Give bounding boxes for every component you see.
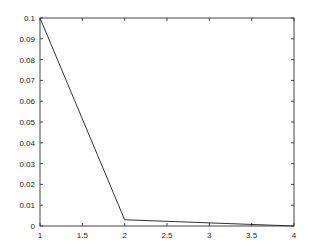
y-tick-label: 0.01: [19, 201, 35, 210]
y-tick-label: 0.03: [19, 160, 35, 169]
y-tick-label: 0: [31, 222, 36, 231]
y-axis-ticks: 00.010.020.030.040.050.060.070.080.090.1: [19, 14, 294, 231]
y-tick-label: 0.1: [24, 14, 36, 23]
x-tick-label: 4: [292, 231, 297, 240]
line-chart: 00.010.020.030.040.050.060.070.080.090.1…: [0, 0, 309, 250]
plot-area-frame: [40, 18, 294, 226]
data-line: [40, 18, 294, 226]
x-tick-label: 3.5: [246, 231, 258, 240]
x-tick-label: 2.5: [161, 231, 173, 240]
y-tick-label: 0.05: [19, 118, 35, 127]
y-tick-label: 0.08: [19, 56, 35, 65]
y-tick-label: 0.02: [19, 180, 35, 189]
y-tick-label: 0.06: [19, 97, 35, 106]
x-tick-label: 2: [122, 231, 127, 240]
x-tick-label: 1: [38, 231, 43, 240]
x-tick-label: 3: [207, 231, 212, 240]
y-tick-label: 0.07: [19, 76, 35, 85]
x-axis-ticks: 11.522.533.54: [38, 18, 297, 240]
y-tick-label: 0.09: [19, 35, 35, 44]
y-tick-label: 0.04: [19, 139, 35, 148]
x-tick-label: 1.5: [77, 231, 89, 240]
